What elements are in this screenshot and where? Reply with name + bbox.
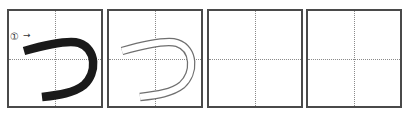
horizontal-guide <box>308 59 400 60</box>
practice-box-blank-1[interactable] <box>207 9 303 108</box>
horizontal-guide <box>209 59 301 60</box>
tsu-stroke-solid <box>9 11 105 110</box>
practice-box-blank-2[interactable] <box>306 9 402 108</box>
practice-box-trace <box>107 9 203 108</box>
tsu-stroke-outline <box>109 11 205 110</box>
practice-box-model: ① → <box>7 9 103 108</box>
